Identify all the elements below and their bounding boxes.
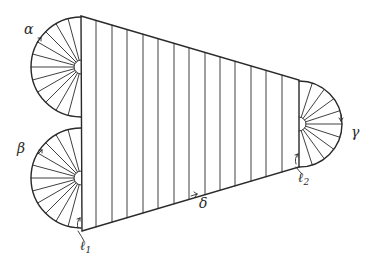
label-delta: δ [199,195,207,211]
diagram-canvas: α β γ δ ℓ1 ℓ2 [0,0,371,265]
label-beta: β [16,140,25,156]
label-alpha: α [24,21,34,37]
fan-spoke [303,89,324,118]
fan-gamma [299,81,342,167]
trapezoid-fan-diagram: α β γ δ ℓ1 ℓ2 [0,0,371,265]
arrow-markers [37,38,343,241]
fan-spoke [46,32,76,62]
fan-spoke [301,131,312,165]
delta-arrow-icon [191,192,197,197]
fan-beta [31,128,81,228]
label-l1-sub: 1 [85,245,91,255]
label-l1: ℓ1 [80,238,91,255]
fan-spoke [46,72,76,102]
fan-spoke [305,99,334,120]
fan-spoke [306,111,340,122]
vertical-hatch-lines [96,20,282,226]
label-l2: ℓ2 [298,170,309,187]
semicircle-fans [31,17,342,228]
label-l2-sub: 2 [302,177,309,187]
fan-spoke [301,83,312,117]
fan-alpha [31,17,81,117]
fan-spoke [303,130,324,159]
fan-spoke [306,126,340,137]
fan-spoke [46,143,76,173]
fan-inner-arc [74,60,81,74]
fan-spoke [46,183,76,213]
fan-spoke [305,128,334,149]
l1-arrow-icon [77,218,80,228]
label-gamma: γ [351,124,360,140]
fan-inner-arc [299,117,306,131]
fan-inner-arc [74,171,81,185]
l2-arrow-icon [295,154,298,164]
